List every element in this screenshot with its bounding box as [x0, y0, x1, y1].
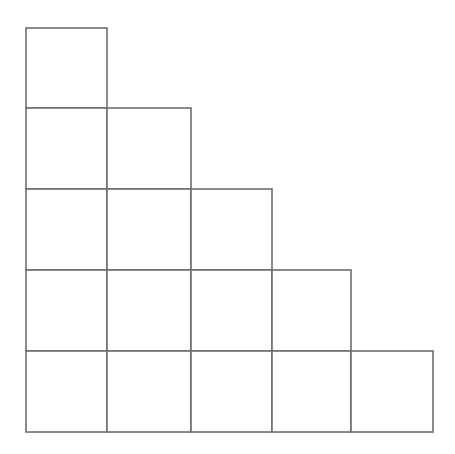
grid-square-r5-c3	[191, 351, 272, 432]
grid-square-r3-c3	[191, 189, 272, 270]
grid-square-r5-c4	[272, 351, 351, 432]
grid-square-r2-c1	[26, 108, 107, 189]
grid-square-r4-c4	[272, 270, 351, 351]
grid-square-r5-c2	[107, 351, 191, 432]
staircase-grid-diagram	[0, 0, 455, 454]
grid-square-r2-c2	[107, 108, 191, 189]
grid-square-r5-c1	[26, 351, 107, 432]
grid-square-r1-c1	[26, 28, 107, 108]
grid-square-r4-c2	[107, 270, 191, 351]
grid-square-r4-c3	[191, 270, 272, 351]
grid-square-r4-c1	[26, 270, 107, 351]
grid-square-r3-c1	[26, 189, 107, 270]
grid-square-r3-c2	[107, 189, 191, 270]
grid-square-r5-c5	[351, 351, 433, 432]
